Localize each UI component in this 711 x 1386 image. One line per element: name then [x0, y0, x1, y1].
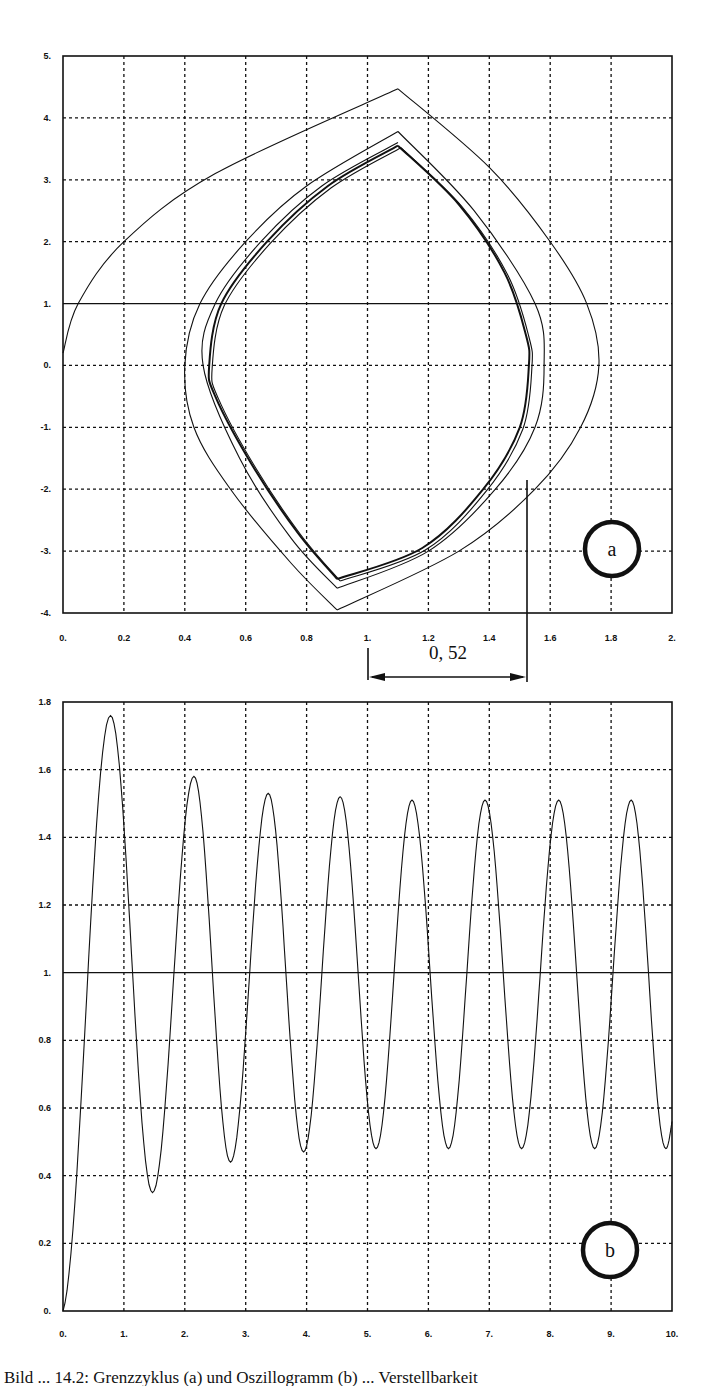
y-tick-label: 1.	[43, 299, 51, 309]
y-tick-label: 0.	[43, 1306, 51, 1316]
y-tick-label: 5.	[43, 51, 51, 61]
phase-plane-chart: 0.0.20.40.60.81.1.21.41.61.82.5.4.3.2.1.…	[40, 51, 675, 682]
y-tick-label: 4.	[43, 113, 51, 123]
y-tick-label: 0.4	[38, 1171, 51, 1181]
dimension-value: 0, 52	[429, 642, 467, 663]
x-tick-label: 0.6	[239, 633, 252, 643]
limit-cycle-curves	[63, 89, 605, 610]
y-tick-label: 0.8	[38, 1035, 51, 1045]
y-tick-label: 1.2	[38, 900, 51, 910]
x-tick-label: 8.	[546, 1329, 554, 1339]
x-tick-label: 4.	[303, 1329, 311, 1339]
label-text-a: a	[608, 538, 617, 560]
x-tick-label: 1.4	[483, 633, 496, 643]
y-tick-label: 0.6	[38, 1103, 51, 1113]
curve-trajectory-outer	[337, 89, 599, 610]
y-tick-label: 0.2	[38, 1238, 51, 1248]
x-tick-label: 1.	[120, 1329, 128, 1339]
x-tick-label: 0.4	[179, 633, 192, 643]
y-tick-label: -4.	[40, 608, 51, 618]
dimension-annotation: 0, 52	[368, 480, 527, 682]
x-tick-label: 5.	[364, 1329, 372, 1339]
x-tick-label: 7.	[486, 1329, 494, 1339]
figure-caption: Bild ... 14.2: Grenzzyklus (a) und Oszil…	[4, 1368, 478, 1386]
x-tick-label: 10.	[666, 1329, 679, 1339]
x-tick-label: 0.8	[300, 633, 313, 643]
x-tick-label: 2.	[181, 1329, 189, 1339]
curve-trajectory-outer	[63, 89, 398, 353]
curve-limit-cycle-inner	[340, 148, 532, 581]
y-tick-label: 1.6	[38, 765, 51, 775]
x-tick-label: 1.	[364, 633, 372, 643]
curve-limit-cycle-2	[337, 132, 544, 589]
x-tick-label: 1.8	[605, 633, 618, 643]
x-tick-label: 3.	[242, 1329, 250, 1339]
y-tick-label: 1.8	[38, 697, 51, 707]
panel-label-b: b	[583, 1223, 637, 1277]
y-tick-label: -1.	[40, 422, 51, 432]
axis-ticks-a: 0.0.20.40.60.81.1.21.41.61.82.5.4.3.2.1.…	[40, 51, 675, 643]
x-tick-label: 0.2	[118, 633, 131, 643]
oscillogram-chart: 0.1.2.3.4.5.6.7.8.9.10.1.81.61.41.21.0.8…	[38, 697, 678, 1339]
y-tick-label: -2.	[40, 484, 51, 494]
x-tick-label: 2.	[668, 633, 676, 643]
x-tick-label: 1.6	[544, 633, 557, 643]
x-tick-label: 6.	[425, 1329, 433, 1339]
y-tick-label: -3.	[40, 546, 51, 556]
y-tick-label: 3.	[43, 175, 51, 185]
y-tick-label: 1.	[43, 968, 51, 978]
label-text-b: b	[605, 1239, 615, 1261]
y-tick-label: 2.	[43, 237, 51, 247]
x-tick-label: 0.	[59, 633, 67, 643]
grid-lines-b	[63, 702, 672, 1311]
panel-label-a: a	[585, 522, 639, 576]
y-tick-label: 1.4	[38, 832, 51, 842]
figure-canvas: 0.0.20.40.60.81.1.21.41.61.82.5.4.3.2.1.…	[0, 0, 711, 1386]
curve-limit-cycle	[337, 146, 529, 579]
x-tick-label: 9.	[607, 1329, 615, 1339]
grid-lines-a	[63, 56, 672, 613]
y-tick-label: 0.	[43, 360, 51, 370]
x-tick-label: 0.	[59, 1329, 67, 1339]
